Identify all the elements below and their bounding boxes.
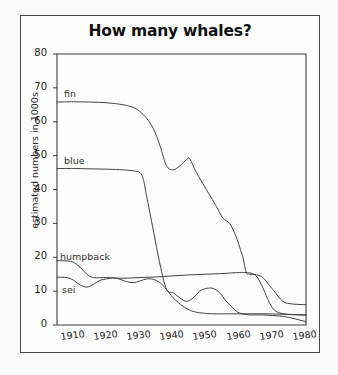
y-tick-label: 0 bbox=[21, 318, 47, 329]
chart-svg bbox=[0, 0, 338, 375]
y-tick-label: 50 bbox=[21, 149, 47, 160]
whale-population-line-chart: estimated numbers in 1000s 0102030405060… bbox=[0, 0, 338, 375]
y-tick-label: 70 bbox=[21, 81, 47, 92]
y-tick-label: 30 bbox=[21, 216, 47, 227]
series-line-blue bbox=[57, 168, 306, 321]
series-label-blue: blue bbox=[64, 155, 85, 166]
series-label-sei: sei bbox=[62, 284, 75, 295]
y-tick-label: 10 bbox=[21, 284, 47, 295]
y-axis-tick-marks bbox=[53, 54, 57, 325]
series-line-sei bbox=[57, 277, 306, 315]
series-line-fin bbox=[57, 102, 306, 305]
series-label-humpback: humpback bbox=[60, 251, 110, 262]
series-label-fin: fin bbox=[64, 88, 76, 99]
y-tick-label: 80 bbox=[21, 47, 47, 58]
series-line-humpback bbox=[57, 261, 306, 316]
data-series-group bbox=[57, 102, 306, 322]
y-tick-label: 60 bbox=[21, 115, 47, 126]
y-tick-label: 40 bbox=[21, 183, 47, 194]
y-tick-label: 20 bbox=[21, 250, 47, 261]
